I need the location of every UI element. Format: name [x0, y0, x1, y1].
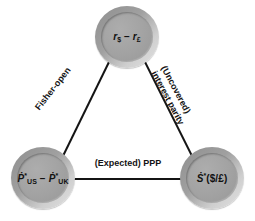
edge-line-fisher-open: [63, 62, 109, 156]
expected-inflation-differential-node[interactable]: Ṗ*US − Ṗ*UK: [11, 147, 75, 209]
node-inner-face: Ṡ*($/£): [186, 153, 238, 203]
label-segment: −: [121, 31, 133, 42]
interest-rate-differential-node[interactable]: r$ − r£: [95, 6, 159, 68]
label-segment: US: [27, 178, 37, 185]
label-segment: ($/£): [206, 173, 227, 184]
label-segment: $: [117, 36, 121, 43]
expected-spot-rate-change-node[interactable]: Ṡ*($/£): [180, 147, 244, 209]
expected-spot-rate-change-label: Ṡ*($/£): [197, 172, 228, 184]
diagram-canvas: r$ − r£ Ṗ*US − Ṗ*UK Ṡ*($/£) Fisher-op…: [0, 0, 255, 221]
node-inner-face: Ṗ*US − Ṗ*UK: [17, 153, 69, 203]
expected-inflation-differential-label: Ṗ*US − Ṗ*UK: [17, 172, 68, 184]
interest-rate-differential-label: r$ − r£: [113, 32, 141, 42]
label-segment: −: [37, 173, 49, 184]
node-inner-face: r$ − r£: [101, 12, 153, 62]
label-segment: £: [137, 36, 141, 43]
label-segment: UK: [58, 178, 68, 185]
edge-label-expected-ppp: (Expected) PPP: [82, 158, 174, 168]
